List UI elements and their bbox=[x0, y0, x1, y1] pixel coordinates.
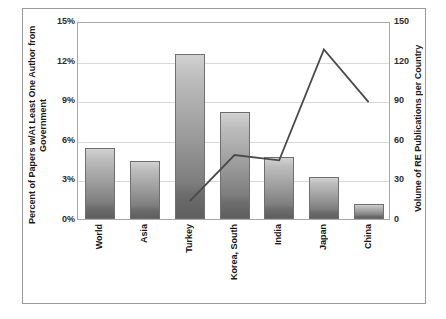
right-tick-label: 120 bbox=[394, 56, 424, 66]
left-tick-label: 6% bbox=[45, 135, 75, 145]
right-tick-label: 0 bbox=[394, 214, 424, 224]
left-tick-label: 0% bbox=[45, 214, 75, 224]
line-path bbox=[190, 49, 369, 201]
right-tick-label: 150 bbox=[394, 16, 424, 26]
x-axis-label: India bbox=[273, 224, 283, 245]
right-axis-ticks: 0306090120150 bbox=[394, 0, 424, 319]
chart-figure: Percent of Papers w/At Least One Author … bbox=[0, 0, 446, 319]
left-tick-label: 15% bbox=[45, 16, 75, 26]
plot-area bbox=[77, 22, 390, 220]
x-axis-label: Japan bbox=[318, 224, 328, 250]
x-axis-label: Korea, South bbox=[229, 224, 239, 280]
left-tick-label: 9% bbox=[45, 95, 75, 105]
left-tick-label: 3% bbox=[45, 174, 75, 184]
right-tick-label: 90 bbox=[394, 95, 424, 105]
x-axis-label: China bbox=[363, 224, 373, 249]
x-axis-label: World bbox=[94, 224, 104, 249]
left-axis-ticks: 0%3%6%9%12%15% bbox=[45, 0, 75, 319]
line-series bbox=[78, 23, 391, 221]
right-tick-label: 60 bbox=[394, 135, 424, 145]
right-tick-label: 30 bbox=[394, 174, 424, 184]
left-tick-label: 12% bbox=[45, 56, 75, 66]
x-axis-labels: WorldAsiaTurkeyKorea, SouthIndiaJapanChi… bbox=[77, 224, 390, 314]
x-axis-label: Turkey bbox=[184, 224, 194, 253]
x-axis-label: Asia bbox=[139, 224, 149, 243]
